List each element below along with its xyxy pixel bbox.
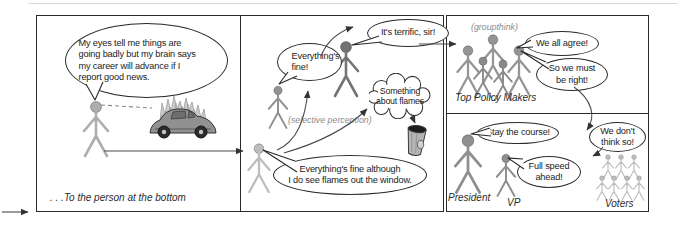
thought-cloud-text: Something about flames — [369, 73, 431, 119]
bubble-line: My eyes tell me things are — [79, 38, 215, 49]
speech-bubble-must-be-right: So we must be right! — [536, 58, 608, 91]
bubble-line: Full speed — [518, 161, 580, 172]
bubble-line: I do see flames out the window. — [274, 175, 426, 186]
speech-bubble-bottom: Everything's fine although I do see flam… — [273, 155, 427, 195]
bubble-line: my career will advance if I — [79, 61, 215, 72]
caption-to-person-at-bottom: . . .To the person at the bottom — [50, 192, 186, 203]
panel-top-policy-makers: (groupthink) Top Policy Makers We all ag… — [446, 15, 649, 115]
bubble-line: going badly but my brain says — [79, 49, 215, 60]
bubble-line: ahead! — [518, 172, 580, 183]
bubble-line: Stay the course! — [478, 127, 558, 138]
panel-president-vp-voters: President Stay the course! VP Full speed… — [446, 113, 649, 212]
bubble-line: It's terrific, sir! — [368, 27, 448, 38]
stick-figure-president — [450, 133, 486, 197]
speech-bubble-terrific: It's terrific, sir! — [367, 19, 449, 47]
label-top-policy-makers: Top Policy Makers — [455, 92, 536, 103]
label-president: President — [448, 192, 490, 203]
stick-figure-reporter — [79, 99, 113, 161]
burning-car-icon — [147, 93, 221, 139]
bubble-line: We don't — [590, 126, 645, 137]
bubble-line: Something — [380, 86, 420, 97]
page-rule — [28, 3, 678, 4]
panel-reporter: My eyes tell me things are going badly b… — [36, 15, 242, 212]
speech-bubble-agree: We all agree! — [525, 31, 599, 56]
stick-figure-vp — [493, 153, 519, 199]
bubble-line: fine! — [292, 62, 338, 73]
bubble-line: Everything's fine although — [274, 164, 426, 175]
label-selective-perception: (selective perception) — [288, 115, 372, 125]
speech-bubble-middle: Everything's fine! — [277, 43, 342, 81]
label-groupthink: (groupthink) — [471, 22, 518, 32]
trash-can-icon — [402, 122, 430, 158]
speech-bubble-voters: We don't think so! — [589, 122, 646, 152]
bubble-line: think so! — [590, 137, 645, 148]
bubble-line: be right! — [537, 75, 607, 86]
label-voters: Voters — [605, 198, 634, 209]
comic-strip: My eyes tell me things are going badly b… — [0, 0, 681, 227]
bubble-line: Everything's — [292, 51, 338, 62]
bubble-line: report good news. — [79, 72, 215, 83]
label-vp: VP — [507, 197, 520, 208]
speech-bubble-president: Stay the course! — [477, 122, 559, 144]
stick-figure-bottom — [244, 142, 274, 196]
panel-hierarchy: Everything's fine although I do see flam… — [240, 15, 444, 212]
bubble-line: So we must — [537, 63, 607, 74]
speech-bubble-reporter: My eyes tell me things are going badly b… — [65, 23, 228, 98]
bubble-line: We all agree! — [526, 38, 598, 49]
bubble-line: about flames — [376, 96, 424, 107]
speech-bubble-vp: Full speed ahead! — [517, 156, 581, 188]
